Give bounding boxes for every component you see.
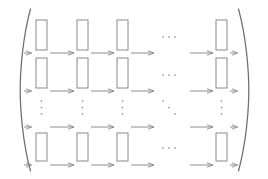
horizontal-ellipsis <box>162 74 176 76</box>
node-rect <box>36 133 47 161</box>
node-rect <box>117 133 128 161</box>
node-rect <box>117 20 128 50</box>
left-paren-icon <box>20 9 30 171</box>
node-rect <box>36 58 47 88</box>
right-paren-icon <box>239 9 249 171</box>
rectangle-row <box>36 58 227 88</box>
node-rect <box>36 20 47 50</box>
vertical-ellipsis <box>41 100 43 115</box>
horizontal-ellipsis <box>162 147 176 149</box>
commutative-grid-diagram <box>0 0 268 179</box>
diagram-canvas <box>0 0 268 179</box>
vertical-ellipsis <box>82 100 84 115</box>
vertical-ellipsis <box>221 100 223 115</box>
matrix-delimiters <box>20 9 249 171</box>
node-rect <box>216 20 227 50</box>
rectangle-row <box>36 133 227 161</box>
node-rect <box>216 58 227 88</box>
node-rect <box>77 58 88 88</box>
node-rect <box>77 133 88 161</box>
node-rect <box>77 20 88 50</box>
node-rect <box>117 58 128 88</box>
vertical-ellipsis <box>122 100 124 115</box>
node-rect <box>216 133 227 161</box>
rectangle-row <box>36 20 227 50</box>
horizontal-ellipsis <box>162 36 176 38</box>
diagonal-ellipsis <box>162 100 176 115</box>
vertical-ellipsis-row <box>41 100 223 115</box>
